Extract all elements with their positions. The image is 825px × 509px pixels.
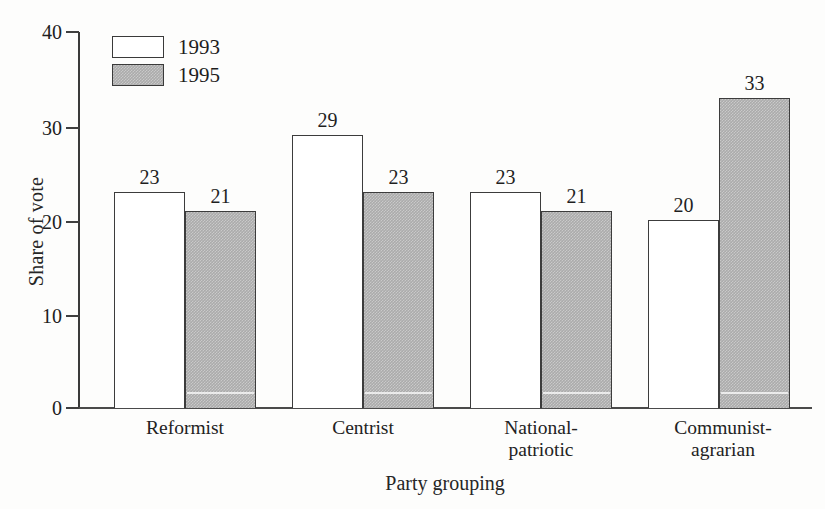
bar-value-label: 21 xyxy=(211,186,231,206)
bar-national-patriotic-1993: 23 xyxy=(470,192,541,408)
y-tick-label: 20 xyxy=(20,212,62,232)
x-category-line: Centrist xyxy=(292,417,434,439)
bar-centrist-1993: 29 xyxy=(292,135,363,408)
y-tick-label: 0 xyxy=(20,398,62,418)
plot-area: 23 21 29 23 23 21 20 xyxy=(78,32,812,408)
bar-reformist-1993: 23 xyxy=(114,192,185,408)
bar-communist-agrarian-1995: 33 xyxy=(719,98,790,408)
x-category-communist-agrarian: Communist- agrarian xyxy=(648,417,798,461)
x-category-line: Communist- xyxy=(648,417,798,439)
x-category-reformist: Reformist xyxy=(114,417,256,439)
x-category-line: patriotic xyxy=(470,439,612,461)
bar-value-label: 29 xyxy=(318,110,338,130)
x-category-line: Reformist xyxy=(114,417,256,439)
x-category-line: agrarian xyxy=(648,439,798,461)
x-category-centrist: Centrist xyxy=(292,417,434,439)
bar-national-patriotic-1995: 21 xyxy=(541,211,612,408)
bar-group-reformist: 23 21 xyxy=(114,32,256,408)
bar-group-communist-agrarian: 20 33 xyxy=(648,32,790,408)
bar-communist-agrarian-1993: 20 xyxy=(648,220,719,408)
bar-centrist-1995: 23 xyxy=(363,192,434,408)
y-tick-label: 10 xyxy=(20,306,62,326)
bar-value-label: 33 xyxy=(745,73,765,93)
x-axis-title: Party grouping xyxy=(78,472,812,495)
bar-chart: Share of vote 40 30 20 10 0 1993 1995 xyxy=(0,0,825,509)
bar-value-label: 23 xyxy=(496,167,516,187)
bar-value-label: 23 xyxy=(140,167,160,187)
bar-group-centrist: 29 23 xyxy=(292,32,434,408)
x-category-national-patriotic: National- patriotic xyxy=(470,417,612,461)
bar-value-label: 20 xyxy=(674,195,694,215)
bar-value-label: 23 xyxy=(389,167,409,187)
bar-group-national-patriotic: 23 21 xyxy=(470,32,612,408)
bar-value-label: 21 xyxy=(567,186,587,206)
y-tick-label: 40 xyxy=(20,22,62,42)
x-category-line: National- xyxy=(470,417,612,439)
y-tick-label: 30 xyxy=(20,118,62,138)
bar-reformist-1995: 21 xyxy=(185,211,256,408)
